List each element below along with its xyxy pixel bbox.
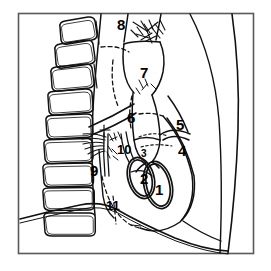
label-11: 11	[106, 199, 120, 212]
label-2: 2	[140, 171, 148, 186]
label-4: 4	[178, 143, 186, 158]
lateral-chest-diagram	[0, 0, 271, 271]
label-3: 3	[141, 149, 147, 159]
label-7: 7	[140, 65, 148, 80]
label-10: 10	[117, 143, 131, 156]
label-1: 1	[155, 182, 163, 197]
label-9: 9	[90, 163, 98, 178]
figure-frame	[19, 14, 254, 254]
figure-canvas: 1 2 3 4 5 6 7 8 9 10 11	[0, 0, 271, 271]
label-5: 5	[176, 117, 184, 132]
label-6: 6	[127, 110, 135, 125]
label-8: 8	[117, 17, 125, 32]
